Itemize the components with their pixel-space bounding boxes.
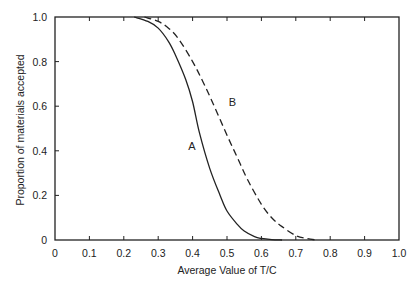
x-tick-label: 0.7 bbox=[288, 247, 303, 259]
x-tick-label: 0.1 bbox=[82, 247, 97, 259]
x-axis-ticks: 00.10.20.30.40.50.60.70.80.91.0 bbox=[52, 17, 406, 259]
x-axis-label: Average Value of T/C bbox=[177, 264, 277, 276]
x-tick-label: 0.8 bbox=[323, 247, 338, 259]
x-tick-label: 0.5 bbox=[220, 247, 235, 259]
y-tick-label: 0.4 bbox=[32, 145, 47, 157]
curve-b-label: B bbox=[229, 96, 236, 108]
x-tick-label: 0.3 bbox=[151, 247, 166, 259]
curve-a bbox=[134, 17, 282, 240]
curve-b bbox=[144, 17, 316, 240]
plot-frame bbox=[55, 17, 399, 240]
curve-a-label: A bbox=[188, 140, 196, 152]
x-tick-label: 0.6 bbox=[254, 247, 269, 259]
x-tick-label: 0 bbox=[52, 247, 58, 259]
x-tick-label: 0.2 bbox=[116, 247, 131, 259]
y-tick-label: 0 bbox=[41, 234, 47, 246]
x-tick-label: 1.0 bbox=[392, 247, 407, 259]
chart-figure: 00.10.20.30.40.50.60.70.80.91.0 00.20.40… bbox=[0, 0, 419, 290]
y-axis-label: Proportion of materials accepted bbox=[14, 54, 26, 205]
x-tick-label: 0.4 bbox=[185, 247, 200, 259]
y-tick-label: 1.0 bbox=[32, 11, 47, 23]
plot-border bbox=[55, 17, 399, 240]
y-tick-label: 0.8 bbox=[32, 56, 47, 68]
y-tick-label: 0.6 bbox=[32, 100, 47, 112]
data-series bbox=[134, 17, 316, 240]
x-tick-label: 0.9 bbox=[357, 247, 372, 259]
y-tick-label: 0.2 bbox=[32, 189, 47, 201]
